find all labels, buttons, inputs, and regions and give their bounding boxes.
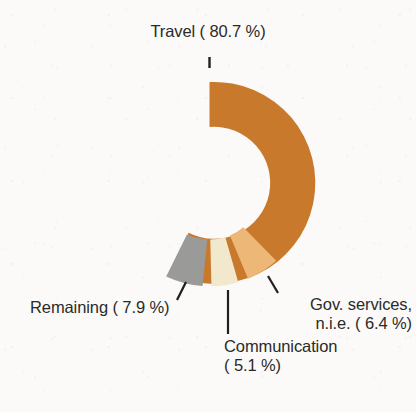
slice-label-travel: Travel ( 80.7 %) — [0, 22, 416, 41]
donut-chart-svg — [0, 0, 416, 412]
slice-label-communication: Communication ( 5.1 %) — [224, 337, 337, 375]
leader-line-gov-services — [268, 276, 278, 293]
donut-chart: Travel ( 80.7 %) Remaining ( 7.9 %) Comm… — [0, 0, 416, 412]
slice-remaining[interactable] — [166, 234, 207, 285]
slice-label-gov-services-line1: Gov. services, — [310, 295, 412, 313]
leader-line-remaining — [177, 282, 186, 300]
slice-label-communication-line1: Communication — [224, 337, 337, 355]
slice-label-remaining: Remaining ( 7.9 %) — [30, 298, 169, 317]
slice-label-gov-services: Gov. services, n.i.e. ( 6.4 %) — [266, 295, 412, 333]
slice-label-communication-line2: ( 5.1 %) — [224, 356, 337, 375]
slice-label-gov-services-line2: n.i.e. ( 6.4 %) — [266, 314, 412, 333]
